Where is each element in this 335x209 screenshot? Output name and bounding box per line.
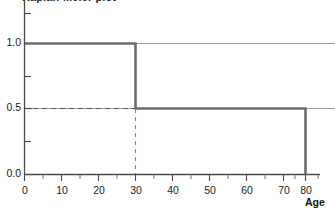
annotation-guides (24, 109, 136, 175)
x-tick-label-30: 30 (125, 185, 147, 196)
x-tick-label-40: 40 (162, 185, 184, 196)
x-tick-label-50: 50 (199, 185, 221, 196)
x-tick-label-10: 10 (51, 185, 73, 196)
survival-plot-canvas (0, 0, 335, 209)
chart-figure: Kaplan-Meier plot (0, 0, 335, 209)
x-tick-label-60: 60 (236, 185, 258, 196)
x-axis-minor-ticks (43, 175, 318, 180)
y-tick-label-0.0: 0.0 (0, 168, 21, 179)
x-tick-label-20: 20 (88, 185, 110, 196)
y-tick-label-0.5: 0.5 (0, 102, 21, 113)
x-tick-label-0: 0 (14, 185, 36, 196)
axes (24, 0, 320, 175)
y-axis-ticks (25, 14, 33, 142)
x-axis-major-ticks (25, 175, 306, 182)
x-axis-title: Age (305, 197, 325, 208)
reference-lines (24, 44, 335, 109)
x-tick-label-70: 70 (273, 185, 295, 196)
x-tick-label-80: 80 (295, 185, 317, 196)
y-tick-label-1.0: 1.0 (0, 37, 21, 48)
